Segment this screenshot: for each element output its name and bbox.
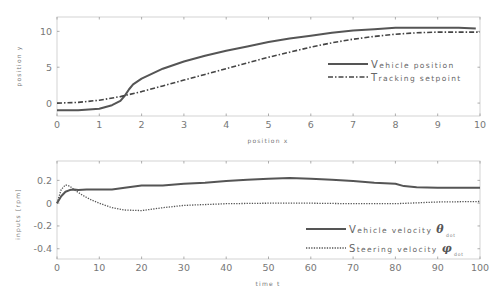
legend-vehicle-velocity: Vehicle velocityθdot (349, 223, 456, 238)
theta-symbol: θ (436, 223, 445, 236)
y-tick-label: 10 (40, 26, 52, 37)
x-tick-label: 30 (178, 262, 190, 273)
x-tick-label: 90 (432, 262, 444, 273)
y-tick-label: -0.2 (33, 220, 52, 231)
bottom-plot-series (57, 178, 480, 211)
y-tick-label: 0 (46, 98, 52, 109)
figure: 012345678910 0510 position x position y … (0, 0, 500, 294)
x-tick-label: 50 (262, 262, 274, 273)
bottom-plot-ylabel: inputs [rpm] (14, 188, 22, 240)
x-tick-label: 10 (474, 119, 486, 130)
x-tick-label: 4 (223, 119, 229, 130)
x-tick-label: 6 (308, 119, 314, 130)
legend-steering-velocity: Steering velocityφdot (349, 242, 464, 257)
bottom-plot-y-tick-labels: 0.20-0.2-0.4 (33, 175, 52, 254)
series-line (57, 178, 480, 203)
x-tick-label: 80 (389, 262, 401, 273)
legend-tracking-setpoint: Tracking setpoint (370, 72, 462, 83)
x-tick-label: 3 (181, 119, 187, 130)
top-plot-y-tick-labels: 0510 (40, 26, 52, 109)
x-tick-label: 0 (54, 262, 60, 273)
y-tick-label: 0 (46, 198, 52, 209)
bottom-plot: 0102030405060708090100 0.20-0.2-0.4 time… (14, 161, 489, 287)
x-tick-label: 0 (54, 119, 60, 130)
top-plot: 012345678910 0510 position x position y … (15, 17, 486, 145)
x-tick-label: 2 (139, 119, 145, 130)
x-tick-label: 10 (93, 262, 105, 273)
y-tick-label: 0.2 (37, 175, 52, 186)
top-plot-legend: Vehicle position Tracking setpoint (328, 59, 462, 83)
x-tick-label: 8 (392, 119, 398, 130)
top-plot-ylabel: position y (15, 45, 23, 86)
x-tick-label: 7 (350, 119, 356, 130)
x-tick-label: 40 (220, 262, 232, 273)
top-plot-x-tick-labels: 012345678910 (54, 119, 486, 130)
x-tick-label: 9 (435, 119, 441, 130)
bottom-plot-xlabel: time t (255, 280, 280, 287)
x-tick-label: 60 (305, 262, 317, 273)
x-tick-label: 70 (347, 262, 359, 273)
y-tick-label: -0.4 (33, 243, 52, 254)
top-plot-xlabel: position x (247, 137, 288, 145)
x-tick-label: 1 (96, 119, 102, 130)
phi-symbol: φ (442, 242, 453, 255)
x-tick-label: 5 (265, 119, 271, 130)
x-tick-label: 20 (136, 262, 148, 273)
bottom-plot-x-tick-labels: 0102030405060708090100 (54, 262, 489, 273)
legend-vehicle-position: Vehicle position (371, 59, 455, 70)
bottom-plot-legend: Vehicle velocityθdot Steering velocityφd… (306, 223, 464, 257)
x-tick-label: 100 (471, 262, 489, 273)
y-tick-label: 5 (46, 62, 52, 73)
